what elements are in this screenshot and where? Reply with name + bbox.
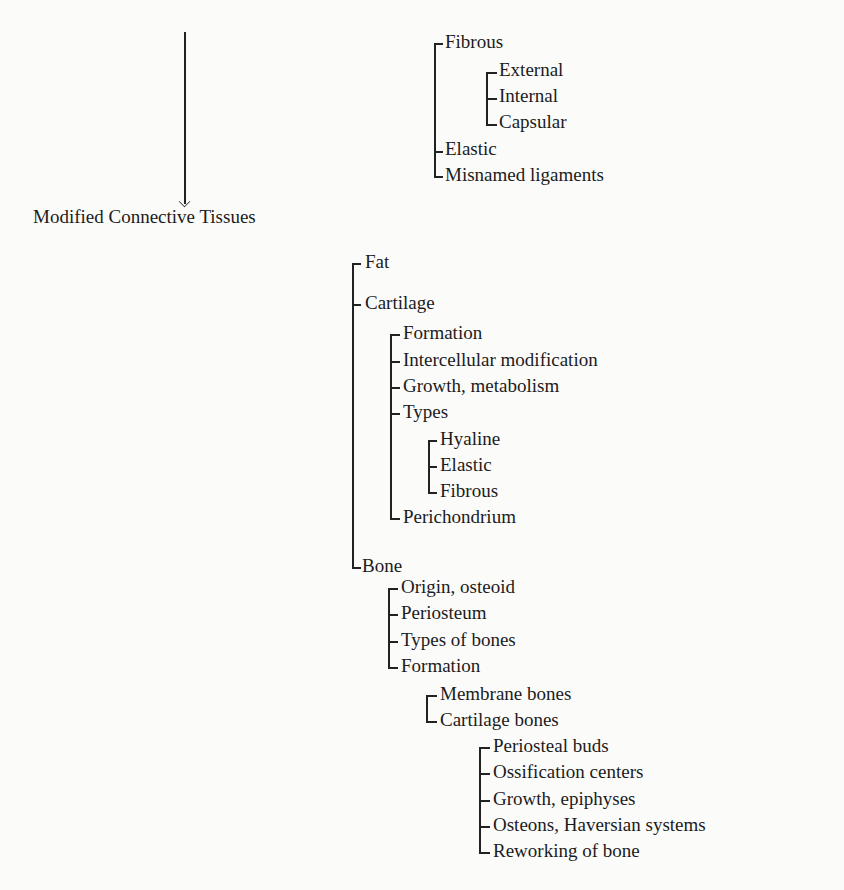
- node-intercellular-modification: Intercellular modification: [403, 349, 598, 371]
- node-elastic: Elastic: [445, 138, 497, 160]
- node-hyaline: Hyaline: [440, 428, 500, 450]
- bracket-tick: [428, 440, 437, 442]
- bracket-tick: [479, 747, 490, 749]
- bracket-tick: [428, 466, 437, 468]
- node-fat: Fat: [365, 251, 389, 273]
- node-external: External: [499, 59, 563, 81]
- node-growth-epiphyses: Growth, epiphyses: [493, 788, 635, 810]
- node-bone: Bone: [362, 555, 402, 577]
- node-origin-osteoid: Origin, osteoid: [401, 576, 515, 598]
- bracket-tick: [434, 176, 443, 178]
- bracket-tick: [486, 124, 497, 126]
- node-perichondrium: Perichondrium: [403, 506, 516, 528]
- node-types: Types: [403, 401, 448, 423]
- bracket-tick: [390, 518, 400, 520]
- bracket-tick: [388, 588, 398, 590]
- node-growth-metabolism: Growth, metabolism: [403, 375, 559, 397]
- node-cartilage-formation: Formation: [403, 322, 482, 344]
- node-fibrous: Fibrous: [445, 31, 503, 53]
- node-cartilage-elastic: Elastic: [440, 454, 492, 476]
- bracket-tick: [352, 304, 361, 306]
- bracket-line: [426, 695, 428, 722]
- bracket-tick: [388, 667, 398, 669]
- bracket-line: [434, 43, 436, 177]
- bracket-tick: [486, 72, 497, 74]
- node-periosteum: Periosteum: [401, 602, 487, 624]
- node-capsular: Capsular: [499, 111, 567, 133]
- bracket-tick: [388, 641, 398, 643]
- node-misnamed-ligaments: Misnamed ligaments: [445, 164, 604, 186]
- bracket-tick: [388, 614, 398, 616]
- node-periosteal-buds: Periosteal buds: [493, 735, 609, 757]
- bracket-tick: [479, 826, 490, 828]
- node-cartilage: Cartilage: [365, 292, 435, 314]
- bracket-tick: [352, 263, 361, 265]
- bracket-tick: [434, 151, 443, 153]
- down-arrow-shaft: [184, 32, 186, 204]
- node-osteons-haversian: Osteons, Haversian systems: [493, 814, 706, 836]
- bracket-tick: [479, 800, 490, 802]
- bracket-tick: [390, 334, 400, 336]
- bracket-tick: [390, 413, 400, 415]
- node-internal: Internal: [499, 85, 558, 107]
- node-cartilage-fibrous: Fibrous: [440, 480, 498, 502]
- root-label: Modified Connective Tissues: [33, 206, 256, 228]
- node-reworking-of-bone: Reworking of bone: [493, 840, 640, 862]
- node-types-of-bones: Types of bones: [401, 629, 516, 651]
- node-ossification-centers: Ossification centers: [493, 761, 643, 783]
- bracket-tick: [426, 695, 437, 697]
- bracket-tick: [426, 721, 437, 723]
- node-membrane-bones: Membrane bones: [440, 683, 571, 705]
- bracket-line: [352, 263, 354, 568]
- bracket-tick: [352, 567, 361, 569]
- bracket-tick: [479, 852, 490, 854]
- node-bone-formation: Formation: [401, 655, 480, 677]
- bracket-tick: [434, 43, 443, 45]
- bracket-tick: [486, 98, 497, 100]
- bracket-tick: [390, 387, 400, 389]
- node-cartilage-bones: Cartilage bones: [440, 709, 559, 731]
- bracket-tick: [390, 361, 400, 363]
- bracket-tick: [428, 492, 437, 494]
- bracket-line: [388, 588, 390, 668]
- bracket-tick: [479, 773, 490, 775]
